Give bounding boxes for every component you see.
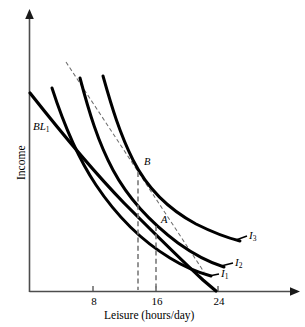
chart-canvas [0, 0, 305, 327]
curve-label-I3-subscript: 3 [253, 234, 257, 243]
x-tick-label-16: 16 [148, 296, 166, 307]
curve-label-I3: I3 [249, 230, 256, 241]
budget-line-label-subscript: 1 [46, 125, 50, 134]
budget-line-label-text: BL [33, 120, 46, 132]
leader-line-I2 [221, 263, 233, 266]
indifference-curve-I2 [80, 78, 224, 267]
leader-line-I1 [209, 274, 219, 276]
curve-label-I1: I1 [221, 268, 228, 279]
y-axis-arrowhead [25, 9, 34, 19]
indifference-curve-I3 [103, 76, 240, 241]
labor-leisure-indifference-curve-figure: 8 16 24 Leisure (hours/day) Income BL1 B… [0, 0, 305, 327]
point-label-B: B [144, 157, 150, 168]
curve-label-I2: I2 [235, 257, 242, 268]
x-axis-arrowhead [290, 287, 300, 295]
budget-line-BL1 [30, 93, 216, 291]
x-tick-label-24: 24 [210, 296, 228, 307]
curve-label-I2-subscript: 2 [239, 261, 243, 270]
budget-line-label: BL1 [33, 121, 50, 132]
leader-line-I3 [236, 236, 247, 240]
y-axis-title: Income [16, 146, 28, 180]
curve-label-I1-subscript: 1 [225, 272, 229, 281]
point-label-A: A [161, 215, 167, 226]
x-tick-label-8: 8 [86, 296, 102, 307]
x-axis-title: Leisure (hours/day) [104, 310, 194, 322]
